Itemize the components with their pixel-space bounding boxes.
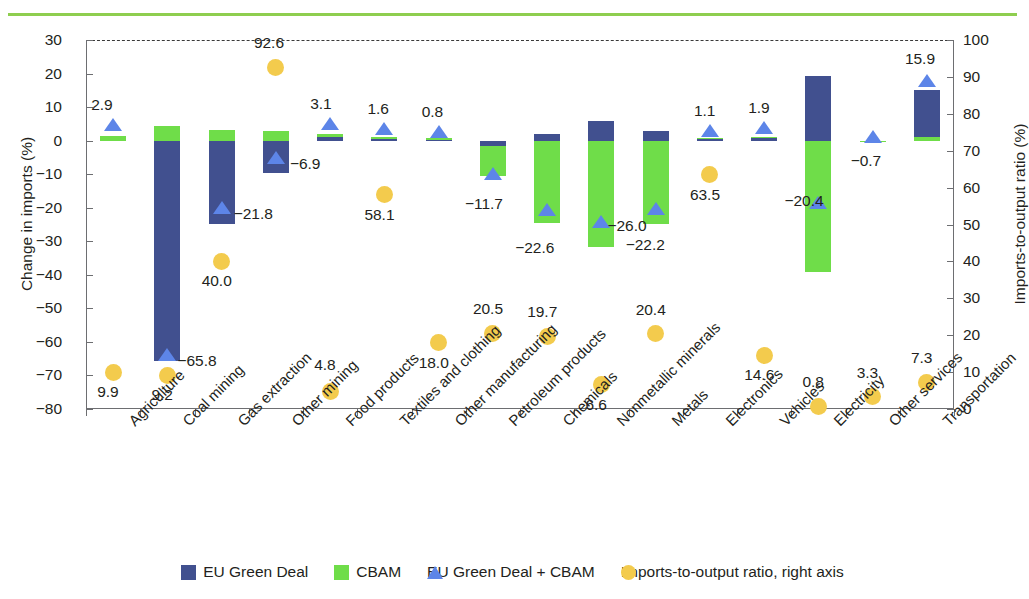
bar-eu-green-deal [534, 134, 560, 140]
x-tick [86, 409, 87, 416]
y-tick-label-left: −10 [36, 166, 62, 182]
data-label-combined: 1.1 [694, 103, 716, 119]
y-tick-left [86, 375, 93, 376]
marker-imports-ratio-dot [105, 364, 122, 381]
y-tick-right [947, 261, 954, 262]
marker-combined-triangle [918, 74, 936, 87]
y-tick-label-left: −30 [36, 233, 62, 249]
y-tick-label-left: −70 [36, 367, 62, 383]
marker-combined-triangle [375, 122, 393, 135]
bar-eu-green-deal [480, 141, 506, 146]
y-tick-label-left: −20 [36, 200, 62, 216]
marker-combined-triangle [104, 118, 122, 131]
bar-cbam [154, 126, 180, 141]
legend-swatch-combined [427, 566, 443, 579]
marker-combined-triangle [321, 117, 339, 130]
bar-eu-green-deal [751, 138, 777, 141]
x-axis-label-other-manufacturing: Other manufacturing [451, 417, 463, 429]
y-tick-left [86, 275, 93, 276]
data-label-imports-ratio: 20.4 [636, 302, 666, 318]
bar-eu-green-deal [371, 139, 397, 141]
data-label-combined: −6.9 [290, 156, 321, 172]
y-tick-label-left: 30 [45, 32, 62, 48]
bar-eu-green-deal [588, 121, 614, 141]
y-tick-right [947, 77, 954, 78]
data-label-combined: −22.2 [626, 237, 665, 253]
y-tick-left [86, 40, 93, 41]
marker-imports-ratio-dot [213, 253, 230, 270]
legend-item[interactable]: EU Green Deal [181, 563, 308, 581]
legend-item-label: CBAM [356, 563, 401, 581]
x-axis-label-chemicals: Chemicals [559, 417, 571, 429]
y-tick-label-left: −50 [36, 300, 62, 316]
y-tick-left [86, 74, 93, 75]
data-label-imports-ratio: 63.5 [690, 187, 720, 203]
data-label-combined: −65.8 [177, 353, 216, 369]
data-label-imports-ratio: 19.7 [527, 304, 557, 320]
x-axis-label-other-mining: Other mining [288, 417, 300, 429]
bar-cbam [914, 137, 940, 141]
y-tick-right [947, 335, 954, 336]
y-tick-label-left: 0 [53, 133, 62, 149]
y-tick-right [947, 151, 954, 152]
y-tick-label-left: −80 [36, 401, 62, 417]
marker-combined-triangle [755, 121, 773, 134]
y-tick-left [86, 241, 93, 242]
y-tick-label-right: 20 [963, 327, 980, 343]
data-label-imports-ratio: 58.1 [364, 207, 394, 223]
marker-imports-ratio-dot [376, 186, 393, 203]
x-axis-label-other-services: Other services [885, 417, 897, 429]
y-axis-left-title: Change in imports (%) [18, 99, 36, 329]
y-tick-left [86, 141, 93, 142]
data-label-imports-ratio: 7.3 [911, 350, 933, 366]
y-tick-label-right: 90 [963, 69, 980, 85]
bar-eu-green-deal [697, 139, 723, 141]
bar-eu-green-deal [643, 131, 669, 141]
data-label-combined: 1.9 [748, 100, 770, 116]
x-axis-label-nonmetallic-minerals: Nonmetallic minerals [613, 417, 625, 429]
legend-swatch-imports-ratio [621, 565, 636, 580]
y-tick-right [947, 225, 954, 226]
data-label-imports-ratio: 4.8 [314, 357, 336, 373]
y-tick-label-right: 100 [963, 32, 989, 48]
y-tick-left [86, 174, 93, 175]
y-tick-label-left: 20 [45, 66, 62, 82]
y-tick-left [86, 308, 93, 309]
x-axis-label-transportation: Transportation [939, 417, 951, 429]
data-label-combined: −22.6 [515, 240, 554, 256]
y-tick-label-left: −60 [36, 334, 62, 350]
y-tick-left [86, 208, 93, 209]
legend-item[interactable]: Imports-to-output ratio, right axis [621, 563, 844, 581]
data-label-imports-ratio: 40.0 [202, 273, 232, 289]
bar-cbam [209, 130, 235, 141]
x-axis-label-electronics: Electronics [722, 417, 734, 429]
bar-eu-green-deal [154, 141, 180, 362]
data-label-combined: −26.0 [607, 218, 646, 234]
legend-item-label: EU Green Deal + CBAM [427, 563, 595, 581]
marker-combined-triangle [538, 203, 556, 216]
y-tick-label-right: 30 [963, 290, 980, 306]
x-axis-label-metals: Metals [668, 417, 680, 429]
legend-item[interactable]: EU Green Deal + CBAM [427, 563, 595, 581]
y-tick-label-left: −40 [36, 267, 62, 283]
data-label-combined: 15.9 [905, 51, 935, 67]
legend-item[interactable]: CBAM [334, 563, 401, 581]
data-label-combined: −21.8 [234, 206, 273, 222]
data-label-combined: 3.1 [310, 96, 332, 112]
data-label-combined: 1.6 [367, 101, 389, 117]
data-label-imports-ratio: 92.6 [254, 35, 284, 51]
x-axis-label-food-products: Food products [342, 417, 354, 429]
y-tick-left [86, 409, 93, 410]
marker-combined-triangle [864, 130, 882, 143]
data-label-combined: 0.8 [422, 104, 444, 120]
bar-eu-green-deal [805, 76, 831, 141]
legend-swatch-cbam [334, 565, 349, 580]
bar-cbam [263, 131, 289, 141]
data-label-combined: −11.7 [465, 196, 503, 212]
y-tick-right [947, 298, 954, 299]
bar-eu-green-deal [426, 140, 452, 141]
x-axis-label-petroleum-products: Petroleum products [505, 417, 517, 429]
bar-eu-green-deal [914, 90, 940, 140]
x-axis-label-gas-extraction: Gas extraction [234, 417, 246, 429]
